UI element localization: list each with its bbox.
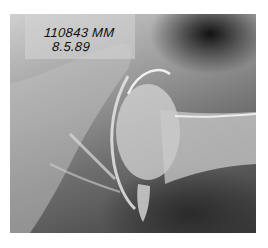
patient-id-label: 110843 MM	[44, 26, 115, 40]
xray-image: 110843 MM 8.5.89	[10, 14, 256, 233]
date-label: 8.5.89	[52, 40, 91, 54]
bone-structures	[10, 14, 256, 233]
